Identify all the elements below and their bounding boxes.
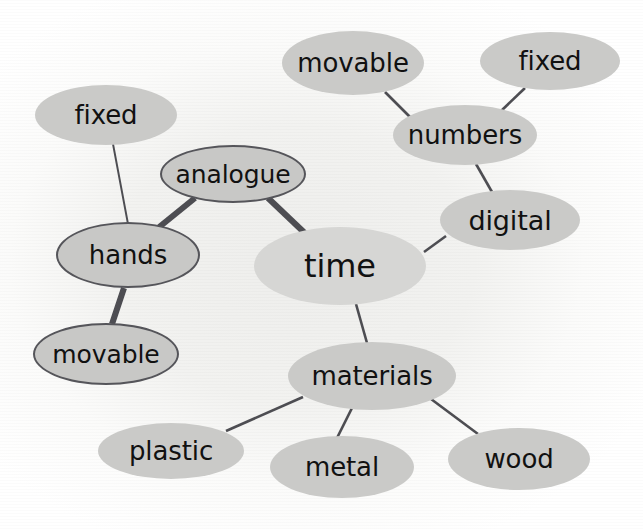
- node-label-hands: hands: [89, 242, 167, 268]
- node-label-fixed-left: fixed: [75, 102, 138, 128]
- node-materials[interactable]: materials: [288, 342, 456, 410]
- node-label-movable-top: movable: [297, 50, 409, 76]
- node-fixed-left[interactable]: fixed: [35, 85, 177, 145]
- node-layer: timeanaloguehandsfixedmovabledigitalnumb…: [0, 0, 643, 529]
- node-label-numbers: numbers: [408, 122, 522, 148]
- node-label-plastic: plastic: [129, 438, 213, 464]
- node-digital[interactable]: digital: [440, 190, 580, 250]
- mind-map-canvas: timeanaloguehandsfixedmovabledigitalnumb…: [0, 0, 643, 529]
- node-plastic[interactable]: plastic: [98, 423, 244, 479]
- node-label-metal: metal: [305, 454, 379, 480]
- node-label-materials: materials: [311, 363, 432, 389]
- node-label-digital: digital: [468, 207, 551, 234]
- node-time[interactable]: time: [254, 227, 426, 305]
- node-metal[interactable]: metal: [270, 436, 414, 498]
- node-label-fixed-right: fixed: [519, 48, 582, 74]
- node-analogue[interactable]: analogue: [160, 145, 306, 203]
- node-label-analogue: analogue: [175, 162, 290, 187]
- node-movable-left[interactable]: movable: [33, 323, 179, 385]
- node-movable-top[interactable]: movable: [282, 31, 424, 95]
- node-hands[interactable]: hands: [56, 222, 200, 288]
- node-wood[interactable]: wood: [448, 428, 590, 490]
- node-label-time: time: [304, 250, 376, 282]
- node-fixed-right[interactable]: fixed: [480, 32, 620, 90]
- node-numbers[interactable]: numbers: [393, 105, 537, 165]
- node-label-movable-left: movable: [52, 342, 159, 367]
- node-label-wood: wood: [484, 446, 553, 472]
